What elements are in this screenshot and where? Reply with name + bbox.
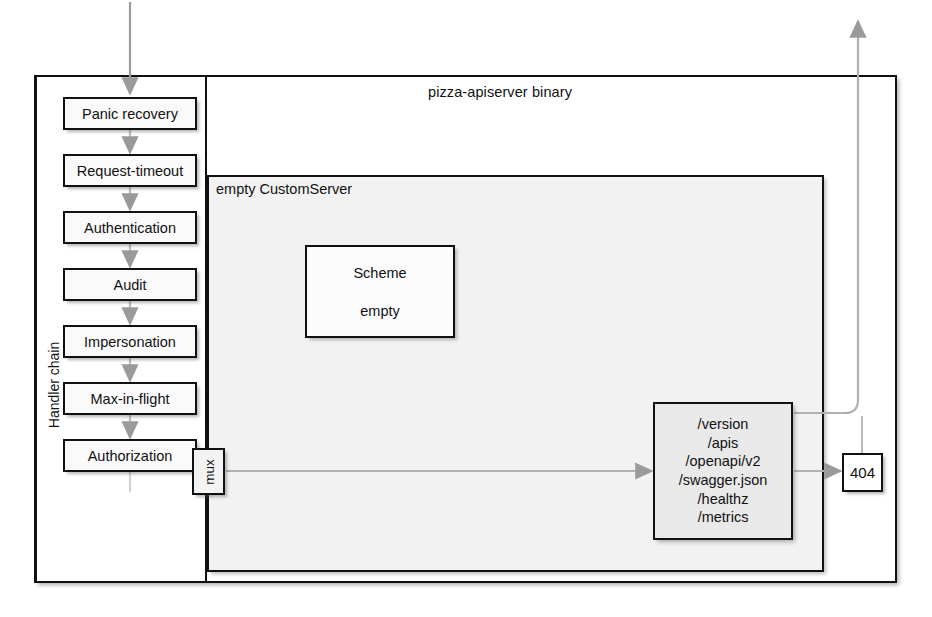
handler-label: Authentication <box>84 220 176 236</box>
handler-label: Panic recovery <box>82 106 178 122</box>
endpoint-route: /version <box>698 415 749 434</box>
binary-title: pizza-apiserver binary <box>300 84 700 100</box>
handler-label: Audit <box>113 277 146 293</box>
scheme-box[interactable]: Scheme empty <box>305 245 455 338</box>
endpoint-route: /healthz <box>698 490 749 509</box>
endpoint-route: /metrics <box>698 508 749 527</box>
scheme-body: empty <box>360 303 400 319</box>
handler-audit[interactable]: Audit <box>63 268 197 301</box>
endpoint-route: /openapi/v2 <box>686 452 761 471</box>
handler-max-in-flight[interactable]: Max-in-flight <box>63 382 197 415</box>
not-found-label: 404 <box>850 464 875 481</box>
mux-label: mux <box>201 459 216 485</box>
endpoint-route: /swagger.json <box>679 471 768 490</box>
diagram-canvas: pizza-apiserver binary Handler chain emp… <box>0 0 932 617</box>
handler-chain-label: Handler chain <box>46 335 62 435</box>
handler-authorization[interactable]: Authorization <box>63 439 197 472</box>
handler-label: Max-in-flight <box>91 391 170 407</box>
handler-authentication[interactable]: Authentication <box>63 211 197 244</box>
handler-label: Impersonation <box>84 334 176 350</box>
handler-panic-recovery[interactable]: Panic recovery <box>63 97 197 130</box>
handler-impersonation[interactable]: Impersonation <box>63 325 197 358</box>
not-found-box[interactable]: 404 <box>842 453 883 492</box>
custom-server-label: empty CustomServer <box>216 181 352 197</box>
endpoint-route: /apis <box>708 434 739 453</box>
handler-label: Request-timeout <box>77 163 183 179</box>
mux-box[interactable]: mux <box>192 448 225 495</box>
handler-request-timeout[interactable]: Request-timeout <box>63 154 197 187</box>
handler-label: Authorization <box>88 448 173 464</box>
endpoints-box[interactable]: /version /apis /openapi/v2 /swagger.json… <box>653 402 793 540</box>
scheme-title: Scheme <box>353 265 406 281</box>
